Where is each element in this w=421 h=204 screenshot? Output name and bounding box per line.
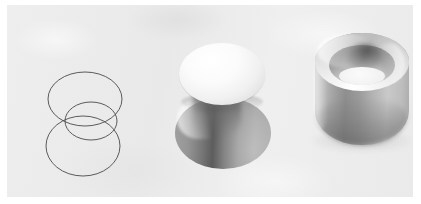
scanned-figure-panel: [7, 5, 413, 197]
lower-large-ellipse: [46, 116, 120, 176]
figure-root: [0, 0, 421, 204]
upper-large-ellipse: [48, 72, 122, 126]
shaded-cylindrical-cup: [307, 23, 413, 155]
shaded-disk-over-cone: [167, 35, 287, 175]
wireframe-three-circles: [37, 61, 147, 189]
wireframe-svg: [37, 61, 147, 189]
cup-rim-right-light: [373, 43, 405, 85]
middle-small-ellipse: [65, 102, 117, 140]
cup-rim-highlight: [317, 34, 375, 68]
disk-top: [179, 43, 265, 105]
